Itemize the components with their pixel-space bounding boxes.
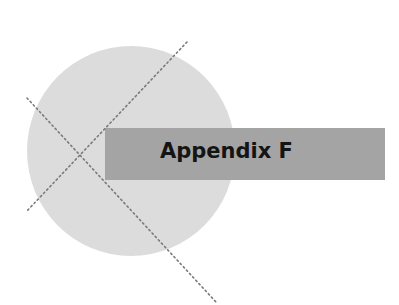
page-title: Appendix F	[160, 136, 293, 166]
dotted-line-descending	[27, 98, 216, 302]
appendix-cover: Appendix F	[0, 0, 399, 305]
dotted-line-ascending	[26, 42, 187, 212]
